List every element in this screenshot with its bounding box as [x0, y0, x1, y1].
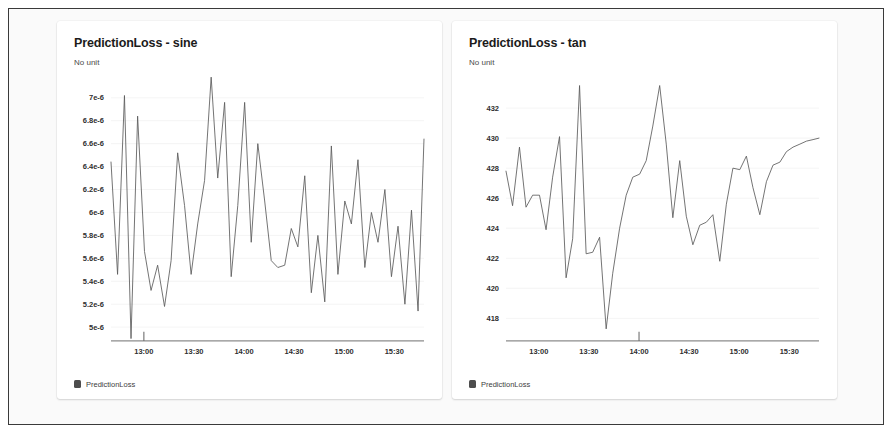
legend-swatch-icon [469, 380, 476, 388]
legend-item-label: PredictionLoss [86, 380, 135, 389]
series-line-predictionloss [506, 86, 819, 329]
x-axis-tick-label: 15:30 [385, 347, 404, 356]
y-axis-tick-label: 5.8e-6 [83, 231, 104, 240]
y-axis-tick-label: 5.6e-6 [83, 254, 104, 263]
page-title: PredictionLoss - sine [74, 36, 430, 51]
line-chart-tan[interactable]: 43243042842642442242041813:0013:3014:001… [464, 74, 825, 375]
series-line-predictionloss [111, 77, 424, 338]
y-axis-tick-label: 5e-6 [89, 323, 104, 332]
chart-legend-sine[interactable]: PredictionLoss [74, 377, 430, 391]
line-chart-sine[interactable]: 7e-66.8e-66.6e-66.4e-66.2e-66e-65.8e-65.… [69, 74, 430, 375]
plot-area-tan[interactable]: 43243042842642442242041813:0013:3014:001… [464, 74, 825, 375]
y-axis-tick-label: 5.2e-6 [83, 300, 104, 309]
y-axis-tick-label: 6.2e-6 [83, 185, 104, 194]
y-axis-tick-label: 428 [487, 164, 499, 173]
x-axis-tick-label: 14:30 [285, 347, 304, 356]
y-axis-tick-label: 6.8e-6 [83, 116, 104, 125]
y-axis-tick-label: 430 [487, 134, 499, 143]
y-axis-tick-label: 7e-6 [89, 93, 104, 102]
x-axis-tick-label: 13:30 [184, 347, 203, 356]
y-axis-tick-label: 422 [487, 254, 499, 263]
y-axis-tick-label: 426 [487, 194, 499, 203]
x-axis-tick-label: 13:00 [529, 347, 548, 356]
chart-panel-tan[interactable]: PredictionLoss - tan No unit 43243042842… [452, 21, 837, 399]
x-axis-tick-label: 15:00 [730, 347, 749, 356]
x-axis-tick-label: 14:00 [629, 347, 648, 356]
y-axis-tick-label: 432 [487, 104, 499, 113]
browser-viewport: PredictionLoss - sine No unit 7e-66.8e-6… [8, 8, 884, 425]
legend-swatch-icon [74, 380, 81, 388]
y-axis-tick-label: 6.4e-6 [83, 162, 104, 171]
x-axis-tick-label: 13:30 [579, 347, 598, 356]
plot-area-sine[interactable]: 7e-66.8e-66.6e-66.4e-66.2e-66e-65.8e-65.… [69, 74, 430, 375]
x-axis-tick-label: 14:00 [234, 347, 253, 356]
x-axis-tick-label: 13:00 [134, 347, 153, 356]
x-axis-tick-label: 15:30 [780, 347, 799, 356]
chart-legend-tan[interactable]: PredictionLoss [469, 377, 825, 391]
chart-panel-sine[interactable]: PredictionLoss - sine No unit 7e-66.8e-6… [57, 21, 442, 399]
x-axis-tick-label: 15:00 [335, 347, 354, 356]
y-axis-tick-label: 5.4e-6 [83, 277, 104, 286]
legend-item-label: PredictionLoss [481, 380, 530, 389]
page-title: PredictionLoss - tan [469, 36, 825, 51]
x-axis-tick-label: 14:30 [680, 347, 699, 356]
y-axis-tick-label: 6e-6 [89, 208, 104, 217]
y-axis-tick-label: 418 [487, 314, 499, 323]
dashboard-grid: PredictionLoss - sine No unit 7e-66.8e-6… [9, 9, 883, 424]
y-axis-tick-label: 6.6e-6 [83, 139, 104, 148]
panel-unit-label: No unit [469, 58, 825, 68]
panel-unit-label: No unit [74, 58, 430, 68]
y-axis-tick-label: 424 [487, 224, 500, 233]
y-axis-tick-label: 420 [487, 284, 499, 293]
